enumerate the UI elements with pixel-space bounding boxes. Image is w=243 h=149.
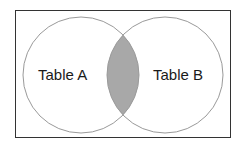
label-table-a: Table A xyxy=(38,67,87,82)
venn-diagram xyxy=(0,0,243,149)
label-table-b: Table B xyxy=(153,67,203,82)
